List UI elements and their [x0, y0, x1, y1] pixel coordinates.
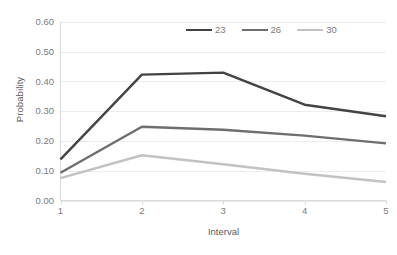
- y-tick-label: 0.00: [22, 196, 54, 206]
- legend-item-26[interactable]: 26: [242, 25, 282, 35]
- y-axis-title: Probability: [14, 50, 25, 150]
- y-tick-label: 0.40: [22, 77, 54, 87]
- x-tick-label: 2: [132, 205, 152, 216]
- series-line-30: [61, 155, 387, 182]
- x-tick-label: 3: [213, 205, 233, 216]
- line-chart: 0.600.500.400.300.200.100.00 Probability…: [0, 0, 397, 255]
- legend-swatch-icon: [242, 29, 268, 31]
- legend-swatch-icon: [297, 29, 323, 31]
- legend-item-30[interactable]: 30: [297, 25, 337, 35]
- legend-label: 26: [271, 25, 282, 35]
- y-tick-label: 0.50: [22, 47, 54, 57]
- series-line-26: [61, 127, 387, 173]
- legend-swatch-icon: [186, 29, 212, 31]
- chart-legend: 232630: [186, 25, 337, 35]
- legend-item-23[interactable]: 23: [186, 25, 226, 35]
- x-tick-label: 4: [295, 205, 315, 216]
- legend-label: 23: [215, 25, 226, 35]
- y-tick-label: 0.30: [22, 106, 54, 116]
- x-axis-title: Interval: [60, 226, 387, 237]
- y-axis-tick-labels: 0.600.500.400.300.200.100.00: [22, 0, 54, 255]
- x-tick-label: 5: [376, 205, 396, 216]
- y-tick-label: 0.60: [22, 17, 54, 27]
- x-axis-tick-labels: 12345: [60, 205, 387, 221]
- x-tick-label: 1: [51, 205, 71, 216]
- y-tick-label: 0.20: [22, 136, 54, 146]
- gridlines: [61, 23, 387, 202]
- data-series: [61, 73, 387, 182]
- legend-label: 30: [326, 25, 337, 35]
- y-tick-label: 0.10: [22, 166, 54, 176]
